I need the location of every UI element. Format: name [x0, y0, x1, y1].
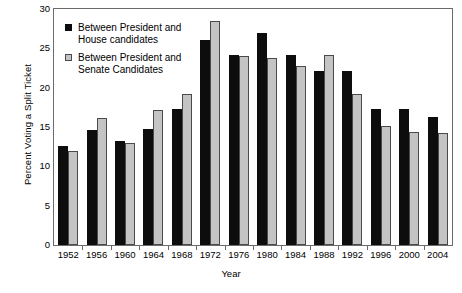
bar-house-1972 [200, 40, 210, 245]
legend-label-line2: House candidates [78, 34, 181, 46]
bar-senate-1952 [68, 151, 78, 245]
x-axis-ticks: 1952195619601964196819721976198019841988… [54, 249, 452, 263]
bar-senate-1968 [182, 94, 192, 245]
x-tick-label: 1988 [310, 249, 338, 263]
legend-label-line1: Between President and [78, 52, 181, 64]
bar-house-1996 [371, 109, 381, 245]
bar-house-1952 [58, 146, 68, 245]
x-tick-label: 1980 [253, 249, 281, 263]
x-tick-label: 2000 [395, 249, 423, 263]
bar-house-2000 [399, 109, 409, 245]
legend-label: Between President andSenate Candidates [78, 52, 181, 75]
split-ticket-bar-chart: Percent Voting a Split Ticket 0510152025… [0, 0, 462, 293]
legend-label-line1: Between President and [78, 22, 181, 34]
bar-senate-1988 [324, 55, 334, 245]
bar-senate-2000 [409, 132, 419, 245]
bar-house-1984 [286, 55, 296, 245]
bar-senate-1960 [125, 143, 135, 245]
bar-house-1992 [342, 71, 352, 245]
x-tick-label: 2004 [424, 249, 452, 263]
bar-group [342, 9, 362, 245]
bar-group [428, 9, 448, 245]
bar-senate-1976 [239, 56, 249, 245]
y-tick-label: 25 [0, 43, 50, 53]
x-tick-label: 1960 [111, 249, 139, 263]
x-tick-label: 1996 [367, 249, 395, 263]
bar-house-1988 [314, 71, 324, 245]
legend-swatch-house-icon [65, 24, 72, 31]
bar-house-1960 [115, 141, 125, 245]
bar-group [314, 9, 334, 245]
x-tick-label: 1964 [139, 249, 167, 263]
legend-label-line2: Senate Candidates [78, 64, 181, 76]
bar-house-1964 [143, 129, 153, 245]
x-tick-label: 1984 [282, 249, 310, 263]
bar-group [399, 9, 419, 245]
bar-house-1980 [257, 33, 267, 245]
legend-swatch-senate-icon [65, 54, 72, 61]
bar-senate-1996 [381, 126, 391, 245]
bar-group [371, 9, 391, 245]
y-tick-label: 10 [0, 161, 50, 171]
y-tick-label: 5 [0, 201, 50, 211]
bar-group [257, 9, 277, 245]
y-tick-label: 30 [0, 4, 50, 14]
chart-legend: Between President andHouse candidatesBet… [65, 22, 181, 82]
bar-senate-2004 [438, 133, 448, 245]
y-tick-label: 20 [0, 83, 50, 93]
legend-label: Between President andHouse candidates [78, 22, 181, 45]
bar-group [229, 9, 249, 245]
bar-senate-1980 [267, 58, 277, 245]
bar-group [200, 9, 220, 245]
bar-house-2004 [428, 117, 438, 245]
bar-senate-1992 [352, 94, 362, 245]
x-axis-title: Year [0, 268, 462, 279]
bar-senate-1964 [153, 110, 163, 245]
bar-house-1976 [229, 55, 239, 245]
legend-item: Between President andSenate Candidates [65, 52, 181, 75]
bar-senate-1972 [210, 21, 220, 245]
x-tick-label: 1976 [225, 249, 253, 263]
x-tick-label: 1972 [196, 249, 224, 263]
legend-item: Between President andHouse candidates [65, 22, 181, 45]
y-tick-label: 0 [0, 240, 50, 250]
bar-house-1968 [172, 109, 182, 245]
bar-senate-1984 [296, 66, 306, 245]
bar-senate-1956 [97, 118, 107, 245]
x-tick-label: 1992 [338, 249, 366, 263]
y-tick-label: 15 [0, 122, 50, 132]
x-tick-label: 1956 [83, 249, 111, 263]
x-tick-label: 1952 [54, 249, 82, 263]
x-tick-label: 1968 [168, 249, 196, 263]
bar-group [286, 9, 306, 245]
bar-house-1956 [87, 130, 97, 245]
